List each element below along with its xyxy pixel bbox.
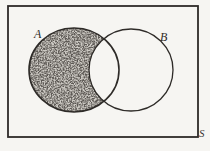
venn-diagram-figure: A B S — [0, 0, 210, 151]
set-a-label: A — [33, 27, 42, 41]
universe-label: S — [199, 127, 205, 139]
set-b-label: B — [160, 30, 168, 44]
venn-diagram-canvas: A B S — [0, 0, 210, 151]
